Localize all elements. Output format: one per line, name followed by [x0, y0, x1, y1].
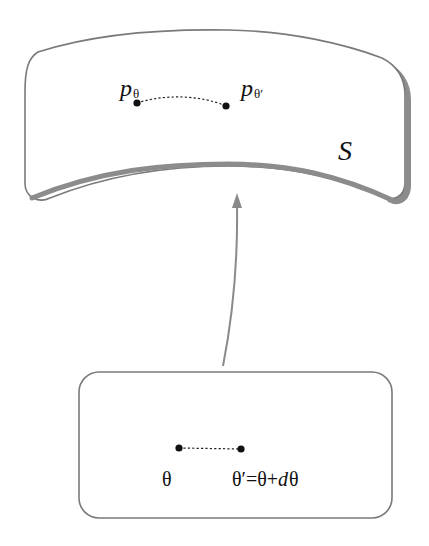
point-theta	[175, 444, 182, 451]
arrow-head-icon	[232, 193, 242, 208]
diagram-canvas: pθ pθ′ S θ θ′=θ+dθ	[0, 0, 429, 546]
label-surface-S: S	[338, 135, 352, 166]
parameter-space-box	[79, 372, 392, 518]
point-theta-prime	[237, 445, 244, 452]
point-p-theta-prime	[222, 102, 229, 109]
label-theta: θ	[162, 468, 172, 490]
surface-S	[25, 30, 405, 200]
label-theta-prime: θ′=θ+dθ	[232, 468, 299, 490]
mapping-arrow	[223, 205, 237, 366]
